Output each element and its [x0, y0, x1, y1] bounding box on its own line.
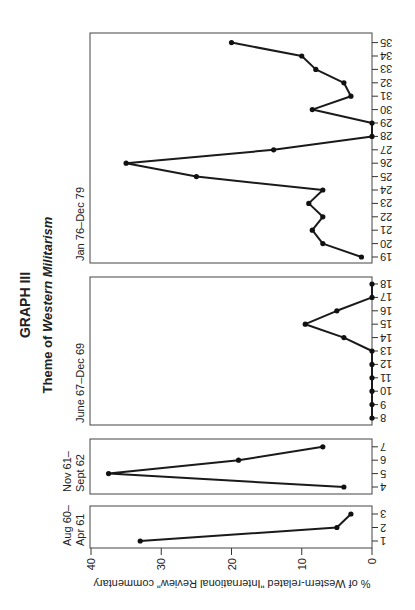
- x-tick-label: 29: [380, 117, 392, 129]
- chart-subtitle-prefix: Theme of: [40, 332, 55, 393]
- y-tick-label: 30: [155, 558, 167, 570]
- data-point: [229, 40, 234, 45]
- panel-period-label: Nov 61–: [61, 450, 73, 492]
- data-point: [369, 348, 374, 353]
- x-tick-label: 33: [380, 63, 392, 75]
- data-point: [299, 53, 304, 58]
- x-tick-label: 3: [380, 508, 386, 520]
- x-tick-label: 4: [380, 481, 386, 493]
- panel-3: June 67–Dec 6989101112131415161718: [74, 277, 392, 425]
- chart-stage: GRAPH III Theme of Western Militarism 01…: [0, 0, 415, 610]
- x-tick-label: 18: [380, 278, 392, 290]
- chart-subtitle-emphasis: Western Militarism: [40, 216, 55, 332]
- x-tick-label: 24: [380, 184, 392, 196]
- data-point: [369, 295, 374, 300]
- x-tick-label: 6: [380, 454, 386, 466]
- x-tick-label: 35: [380, 37, 392, 49]
- series-line: [305, 284, 372, 418]
- data-point: [334, 308, 339, 313]
- data-point: [369, 389, 374, 394]
- series-line: [126, 43, 372, 257]
- chart-subtitle: Theme of Western Militarism: [40, 216, 55, 393]
- x-tick-label: 34: [380, 50, 392, 62]
- x-tick-label: 14: [380, 332, 392, 344]
- data-point: [341, 80, 346, 85]
- series-line: [109, 447, 344, 487]
- x-tick-label: 21: [380, 224, 392, 236]
- x-tick-label: 12: [380, 358, 392, 370]
- panel-period-label: Aug 60–: [61, 504, 73, 546]
- panel-2: Nov 61–Sept 624567: [61, 439, 386, 494]
- data-point: [334, 525, 339, 530]
- value-axis: 010203040: [85, 548, 378, 570]
- panel-period-label: Apr 61: [74, 514, 86, 546]
- x-tick-label: 17: [380, 291, 392, 303]
- chart-title: GRAPH III: [17, 272, 33, 338]
- series-line: [140, 514, 351, 541]
- x-tick-label: 22: [380, 211, 392, 223]
- x-tick-label: 2: [380, 522, 386, 534]
- data-point: [310, 228, 315, 233]
- panel-4: Jan 76–Dec 79192021222324252627282930313…: [74, 33, 392, 263]
- data-point: [303, 322, 308, 327]
- x-tick-label: 7: [380, 441, 386, 453]
- data-point: [313, 67, 318, 72]
- data-point: [106, 471, 111, 476]
- panel-1: Aug 60–Apr 61123: [61, 504, 386, 548]
- data-point: [320, 241, 325, 246]
- data-point: [369, 362, 374, 367]
- data-point: [138, 538, 143, 543]
- x-tick-label: 25: [380, 171, 392, 183]
- panels: Aug 60–Apr 61123Nov 61–Sept 624567June 6…: [61, 33, 392, 548]
- data-point: [341, 335, 346, 340]
- data-point: [348, 511, 353, 516]
- data-point: [369, 375, 374, 380]
- panel-frame: [90, 277, 372, 425]
- y-tick-label: 20: [226, 558, 238, 570]
- data-point: [369, 281, 374, 286]
- panel-period-label: Sept 62: [74, 454, 86, 492]
- x-tick-label: 10: [380, 385, 392, 397]
- x-tick-label: 1: [380, 535, 386, 547]
- x-tick-label: 31: [380, 90, 392, 102]
- x-tick-label: 11: [380, 372, 391, 384]
- panel-period-label: Jan 76–Dec 79: [74, 187, 86, 261]
- x-tick-label: 20: [380, 238, 392, 250]
- x-tick-label: 5: [380, 468, 386, 480]
- data-point: [320, 187, 325, 192]
- y-tick-label: 10: [296, 558, 308, 570]
- data-point: [341, 484, 346, 489]
- data-point: [369, 120, 374, 125]
- data-point: [369, 402, 374, 407]
- data-point: [306, 201, 311, 206]
- panel-period-label: June 67–Dec 69: [74, 343, 86, 423]
- x-tick-label: 8: [380, 412, 386, 424]
- data-point: [320, 214, 325, 219]
- data-point: [359, 254, 364, 259]
- x-tick-label: 26: [380, 157, 392, 169]
- data-point: [369, 134, 374, 139]
- x-tick-label: 16: [380, 305, 392, 317]
- x-tick-label: 23: [380, 197, 392, 209]
- x-tick-label: 9: [380, 399, 386, 411]
- graph-iii-chart: GRAPH III Theme of Western Militarism 01…: [0, 0, 415, 610]
- data-point: [320, 444, 325, 449]
- data-point: [369, 415, 374, 420]
- y-tick-label: 40: [85, 558, 97, 570]
- x-tick-label: 19: [380, 251, 392, 263]
- y-tick-label: 0: [366, 558, 378, 564]
- x-tick-label: 15: [380, 318, 392, 330]
- data-point: [310, 107, 315, 112]
- x-tick-label: 13: [380, 345, 392, 357]
- panel-frame: [90, 33, 372, 263]
- data-point: [271, 147, 276, 152]
- y-axis-label: % of Western-related "International Revi…: [93, 578, 371, 590]
- data-point: [236, 458, 241, 463]
- data-point: [124, 161, 129, 166]
- x-tick-label: 28: [380, 130, 392, 142]
- x-tick-label: 32: [380, 77, 392, 89]
- x-tick-label: 30: [380, 104, 392, 116]
- x-tick-label: 27: [380, 144, 392, 156]
- data-point: [348, 94, 353, 99]
- data-point: [194, 174, 199, 179]
